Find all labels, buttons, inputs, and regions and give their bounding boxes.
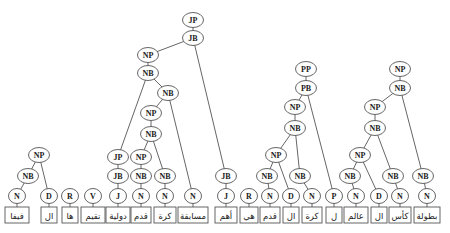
- tree-node-nb: NB: [290, 169, 311, 184]
- node-label: N: [309, 192, 315, 201]
- tree-node-n: N: [262, 189, 279, 204]
- tree-node-j: J: [110, 189, 127, 204]
- tree-node-pp: PP: [296, 62, 317, 77]
- token-box: عالم: [344, 207, 368, 223]
- node-label: NP: [355, 151, 366, 160]
- node-label: D: [288, 192, 294, 201]
- tree-node-jb: JB: [108, 169, 129, 184]
- tree-node-nb: NB: [158, 86, 179, 101]
- tree-nodes: NDRVJNNNJRNDNPNDNNNBNPJBJPNBNBNPNBNPNBNB…: [9, 13, 436, 204]
- token-word: قدم: [263, 211, 277, 221]
- parse-tree-canvas: NDRVJNNNJRNDNPNDNNNBNPJBJPNBNBNPNBNPNBNB…: [0, 0, 450, 233]
- tree-node-n: N: [9, 189, 26, 204]
- tree-edge: [400, 88, 423, 176]
- tree-node-nb: NB: [131, 169, 152, 184]
- node-label: PB: [301, 84, 312, 93]
- tree-node-r: R: [241, 189, 258, 204]
- tree-node-nb: NB: [390, 81, 411, 96]
- tree-node-nb: NB: [138, 66, 159, 81]
- tree-node-jp: JP: [108, 150, 129, 165]
- tree-node-v: V: [85, 189, 102, 204]
- tree-node-np: NP: [138, 48, 159, 63]
- node-label: NB: [369, 124, 381, 133]
- node-label: N: [397, 192, 403, 201]
- token-word: ال: [375, 211, 384, 221]
- node-label: PP: [301, 65, 311, 74]
- tree-node-np: NP: [365, 100, 386, 115]
- node-label: N: [424, 192, 430, 201]
- tree-node-n: N: [392, 189, 409, 204]
- token-box: ها: [62, 207, 78, 223]
- token-word: قدم: [134, 211, 148, 221]
- tree-node-nb: NB: [413, 169, 434, 184]
- node-label: NB: [344, 172, 356, 181]
- parse-tree-diagram: NDRVJNNNJRNDNPNDNNNBNPJBJPNBNBNPNBNPNBNB…: [0, 0, 450, 233]
- tree-node-np: NP: [29, 148, 50, 163]
- node-label: NB: [22, 172, 34, 181]
- tree-node-j: J: [218, 189, 235, 204]
- tree-node-nb: NB: [383, 169, 404, 184]
- node-label: NP: [136, 153, 147, 162]
- token-row: فيفاالهاتقيمدوليةقدمكرةمسابقةأهمهيقدمالك…: [5, 207, 440, 223]
- token-word: هي: [243, 211, 255, 221]
- tree-node-jb: JB: [183, 31, 204, 46]
- node-label: N: [190, 192, 196, 201]
- tree-node-np: NP: [350, 148, 371, 163]
- token-box: مسابقة: [178, 207, 208, 223]
- node-label: JB: [113, 172, 123, 181]
- token-box: فيفا: [5, 207, 29, 223]
- tree-node-d: D: [283, 189, 300, 204]
- node-label: D: [46, 192, 52, 201]
- node-label: NB: [162, 89, 174, 98]
- node-label: NB: [142, 69, 154, 78]
- node-label: D: [376, 192, 382, 201]
- tree-node-n: N: [133, 189, 150, 204]
- node-label: NB: [145, 130, 157, 139]
- token-word: فيفا: [10, 211, 24, 221]
- token-box: هي: [240, 207, 258, 223]
- tree-node-n: N: [419, 189, 436, 204]
- token-box: دولية: [106, 207, 130, 223]
- tree-edge: [193, 38, 226, 176]
- tree-node-nb: NB: [155, 169, 176, 184]
- node-label: J: [116, 192, 120, 201]
- token-word: ل: [331, 211, 337, 221]
- tree-node-np: NP: [285, 100, 306, 115]
- node-label: J: [224, 192, 228, 201]
- tree-node-n: N: [185, 189, 202, 204]
- token-word: ها: [66, 211, 73, 221]
- node-label: NB: [394, 84, 406, 93]
- node-label: N: [14, 192, 20, 201]
- tree-node-pb: PB: [296, 81, 317, 96]
- tree-node-nb: NB: [141, 127, 162, 142]
- token-box: ل: [326, 207, 342, 223]
- tree-node-n: N: [304, 189, 321, 204]
- tree-node-d: D: [41, 189, 58, 204]
- tree-node-p: P: [326, 189, 343, 204]
- node-label: NB: [289, 124, 301, 133]
- token-word: كأس: [391, 210, 409, 221]
- token-word: عالم: [348, 211, 364, 222]
- token-box: كأس: [389, 207, 411, 223]
- tree-node-nb: NB: [257, 169, 278, 184]
- token-box: ال: [283, 207, 299, 223]
- tree-node-n: N: [157, 189, 174, 204]
- node-label: NB: [261, 172, 273, 181]
- token-box: قدم: [131, 207, 151, 223]
- node-label: NP: [395, 65, 406, 74]
- tree-node-np: NP: [141, 106, 162, 121]
- node-label: NB: [159, 172, 171, 181]
- node-label: N: [162, 192, 168, 201]
- node-label: JB: [188, 34, 198, 43]
- node-label: P: [332, 192, 337, 201]
- tree-node-np: NP: [266, 148, 287, 163]
- node-label: NP: [143, 51, 154, 60]
- tree-node-jp: JP: [183, 13, 204, 28]
- token-word: دولية: [109, 211, 127, 221]
- node-label: V: [90, 192, 96, 201]
- tree-node-nb: NB: [285, 121, 306, 136]
- node-label: NB: [294, 172, 306, 181]
- tree-node-r: R: [62, 189, 79, 204]
- node-label: N: [138, 192, 144, 201]
- node-label: NP: [146, 109, 157, 118]
